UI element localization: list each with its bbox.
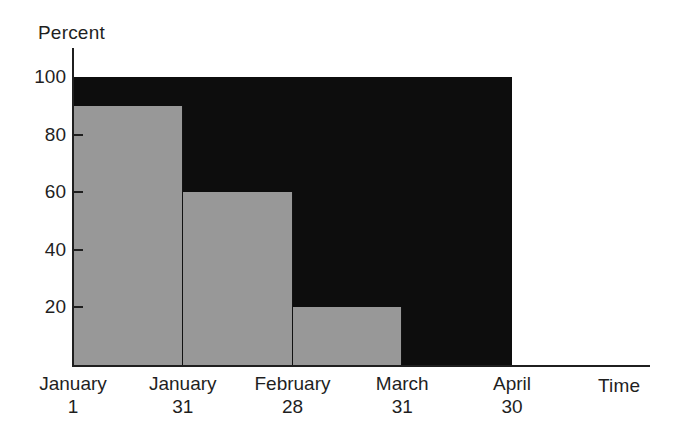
bar-segment: 90 — [73, 106, 183, 365]
x-axis-line — [72, 365, 650, 367]
y-axis-tick — [74, 249, 83, 251]
y-axis-tick — [74, 306, 83, 308]
x-axis-tick-label: February28 — [254, 372, 330, 418]
x-axis-tick-label: January1 — [39, 372, 107, 418]
x-axis-tick-label: January31 — [149, 372, 217, 418]
x-tick-month: April — [493, 372, 531, 395]
x-tick-month: February — [254, 372, 330, 395]
y-axis-line — [72, 48, 74, 366]
x-tick-month: January — [39, 372, 107, 395]
y-axis-tick — [74, 134, 83, 136]
x-axis-title: Time — [598, 375, 640, 397]
x-tick-month: March — [376, 372, 429, 395]
x-tick-day: 30 — [493, 395, 531, 418]
x-tick-month: January — [149, 372, 217, 395]
x-tick-day: 1 — [39, 395, 107, 418]
x-tick-day: 31 — [376, 395, 429, 418]
bar-segment: 20 — [293, 307, 403, 365]
x-axis-tick-label: April30 — [493, 372, 531, 418]
y-axis-tick — [74, 191, 83, 193]
y-axis-tick-label: 100 — [20, 66, 66, 88]
plot-area: 9060200 — [73, 77, 512, 365]
x-axis-tick-label: March31 — [376, 372, 429, 418]
y-axis-tick-label: 60 — [20, 181, 66, 203]
bar-segment: 60 — [183, 192, 293, 365]
chart-figure: Percent 9060200 20406080100 January1Janu… — [0, 0, 683, 443]
x-tick-day: 31 — [149, 395, 217, 418]
y-axis-tick-label: 40 — [20, 239, 66, 261]
y-axis-tick-label: 20 — [20, 296, 66, 318]
x-tick-day: 28 — [254, 395, 330, 418]
y-axis-tick-label: 80 — [20, 124, 66, 146]
